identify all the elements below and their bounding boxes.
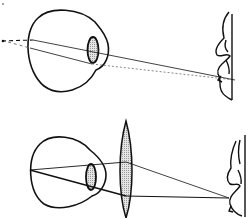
virtual-focus-point	[2, 40, 5, 43]
light-ray-upper-top	[33, 40, 235, 80]
panel-corrected	[30, 121, 245, 218]
object-figure-top	[216, 12, 232, 100]
light-ray-upper-bottom	[30, 162, 126, 170]
light-ray-upper-bottom-2	[126, 162, 229, 198]
light-ray-lower-dotted-top	[92, 64, 235, 80]
light-ray-lower-top	[30, 48, 92, 64]
convex-corrective-lens	[120, 121, 132, 218]
hyperopia-diagram	[0, 0, 252, 218]
panel-uncorrected	[2, 3, 235, 100]
crystalline-lens-top	[88, 37, 99, 63]
diagram-canvas	[0, 0, 252, 218]
object-figure-bottom	[227, 135, 245, 217]
virtual-ray-extension-2	[8, 42, 30, 48]
light-ray-lower-bottom	[30, 170, 126, 196]
light-ray-lower-bottom-2	[126, 196, 229, 198]
stray-mark	[2, 3, 4, 5]
